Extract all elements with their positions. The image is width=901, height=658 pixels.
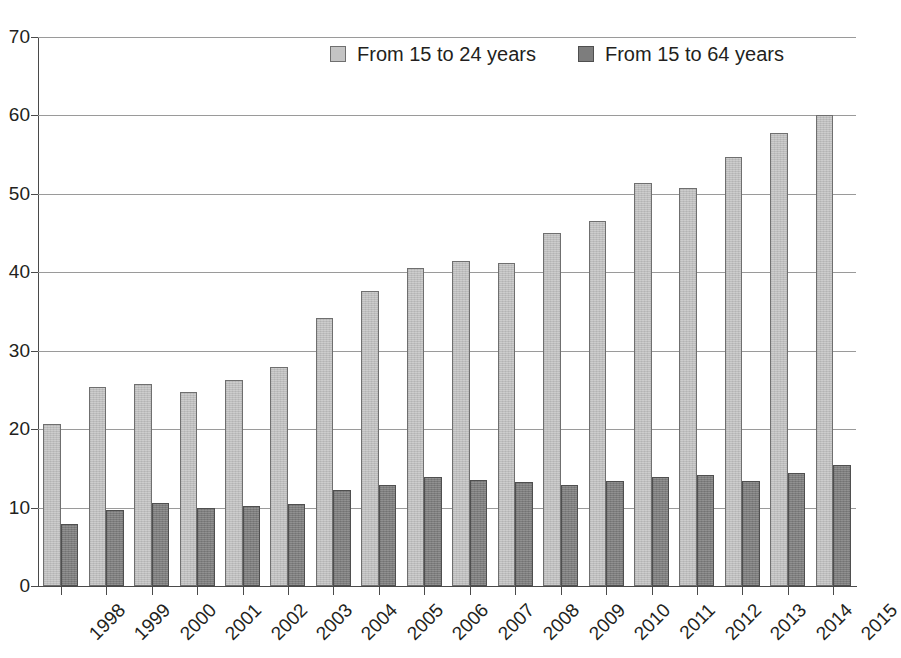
bar-1998-series-1[interactable] — [61, 524, 79, 586]
x-tick-mark-2002 — [243, 587, 244, 595]
x-tick-label-2001: 2001 — [221, 600, 264, 643]
bar-2005-series-0[interactable] — [361, 291, 379, 586]
x-tick-label-2015: 2015 — [858, 600, 901, 643]
x-tick-mark-2011 — [652, 587, 653, 595]
y-tick-mark-30 — [31, 351, 38, 352]
y-tick-mark-70 — [31, 37, 38, 38]
x-tick-mark-1998 — [61, 587, 62, 595]
bar-2000-series-0[interactable] — [134, 384, 152, 586]
bar-2010-series-1[interactable] — [606, 481, 624, 586]
x-tick-mark-2015 — [833, 587, 834, 595]
bar-2003-series-0[interactable] — [270, 367, 288, 586]
gridline-70 — [38, 37, 856, 38]
chart-legend: From 15 to 24 yearsFrom 15 to 64 years — [330, 44, 784, 64]
x-tick-label-2013: 2013 — [767, 600, 810, 643]
x-tick-label-2007: 2007 — [494, 600, 537, 643]
x-tick-mark-2008 — [515, 587, 516, 595]
bar-2001-series-1[interactable] — [197, 508, 215, 586]
x-tick-label-2003: 2003 — [312, 600, 355, 643]
x-tick-label-2012: 2012 — [721, 600, 764, 643]
y-tick-label-10: 10 — [0, 498, 30, 517]
legend-item-0[interactable]: From 15 to 24 years — [330, 44, 536, 64]
y-tick-mark-60 — [31, 115, 38, 116]
bar-2015-series-1[interactable] — [833, 465, 851, 586]
x-tick-label-2004: 2004 — [358, 600, 401, 643]
y-tick-mark-20 — [31, 429, 38, 430]
bar-2009-series-1[interactable] — [561, 485, 579, 586]
bar-2004-series-1[interactable] — [333, 490, 351, 586]
x-tick-mark-2010 — [606, 587, 607, 595]
bar-2001-series-0[interactable] — [180, 392, 198, 587]
bar-2008-series-1[interactable] — [515, 482, 533, 586]
x-tick-label-2009: 2009 — [585, 600, 628, 643]
gridline-0 — [38, 586, 856, 587]
x-tick-mark-2006 — [424, 587, 425, 595]
y-tick-label-30: 30 — [0, 341, 30, 360]
bar-2012-series-1[interactable] — [697, 475, 715, 586]
y-tick-label-0: 0 — [0, 576, 30, 595]
bar-2013-series-0[interactable] — [725, 157, 743, 586]
y-tick-label-70: 70 — [0, 27, 30, 46]
x-tick-mark-2013 — [742, 587, 743, 595]
bar-1999-series-1[interactable] — [106, 510, 124, 586]
x-tick-mark-2000 — [152, 587, 153, 595]
scan-artifact-strip — [0, 0, 870, 8]
bar-1998-series-0[interactable] — [43, 424, 61, 586]
x-tick-mark-2007 — [470, 587, 471, 595]
x-tick-label-2002: 2002 — [267, 600, 310, 643]
bar-1999-series-0[interactable] — [89, 387, 107, 586]
y-tick-mark-0 — [31, 586, 38, 587]
y-tick-mark-10 — [31, 508, 38, 509]
bar-2013-series-1[interactable] — [742, 481, 760, 586]
x-tick-mark-2014 — [788, 587, 789, 595]
y-tick-label-40: 40 — [0, 262, 30, 281]
light-gray-swatch — [330, 46, 346, 62]
bar-2008-series-0[interactable] — [498, 263, 516, 586]
bar-2006-series-1[interactable] — [424, 477, 442, 586]
bar-2007-series-1[interactable] — [470, 480, 488, 586]
bar-2014-series-1[interactable] — [788, 473, 806, 586]
bar-2010-series-0[interactable] — [589, 221, 607, 586]
bar-2012-series-0[interactable] — [679, 188, 697, 586]
y-tick-mark-40 — [31, 272, 38, 273]
dark-gray-swatch — [578, 46, 594, 62]
x-tick-mark-2004 — [333, 587, 334, 595]
bar-2007-series-0[interactable] — [452, 261, 470, 586]
x-tick-mark-2012 — [697, 587, 698, 595]
x-tick-label-2006: 2006 — [449, 600, 492, 643]
y-tick-mark-50 — [31, 194, 38, 195]
bar-2014-series-0[interactable] — [770, 133, 788, 586]
x-tick-mark-1999 — [106, 587, 107, 595]
x-tick-label-1998: 1998 — [85, 600, 128, 643]
bar-2015-series-0[interactable] — [816, 115, 834, 586]
x-tick-label-1999: 1999 — [131, 600, 174, 643]
bar-2011-series-0[interactable] — [634, 183, 652, 586]
y-tick-label-50: 50 — [0, 184, 30, 203]
bar-2005-series-1[interactable] — [379, 485, 397, 586]
plot-area — [38, 37, 856, 586]
bar-2011-series-1[interactable] — [652, 477, 670, 586]
bar-2004-series-0[interactable] — [316, 318, 334, 586]
x-tick-label-2011: 2011 — [675, 600, 717, 642]
x-tick-label-2014: 2014 — [812, 600, 855, 643]
bar-2003-series-1[interactable] — [288, 504, 306, 586]
bar-2009-series-0[interactable] — [543, 233, 561, 586]
legend-label-0: From 15 to 24 years — [357, 44, 536, 64]
bar-2006-series-0[interactable] — [407, 268, 425, 586]
x-tick-mark-2001 — [197, 587, 198, 595]
x-tick-label-2000: 2000 — [176, 600, 219, 643]
x-tick-mark-2005 — [379, 587, 380, 595]
gridline-60 — [38, 115, 856, 116]
legend-item-1[interactable]: From 15 to 64 years — [578, 44, 784, 64]
y-tick-label-20: 20 — [0, 419, 30, 438]
x-tick-label-2010: 2010 — [630, 600, 673, 643]
bar-2000-series-1[interactable] — [152, 503, 170, 586]
x-tick-label-2008: 2008 — [540, 600, 583, 643]
x-tick-mark-2003 — [288, 587, 289, 595]
x-tick-mark-2009 — [561, 587, 562, 595]
x-tick-label-2005: 2005 — [403, 600, 446, 643]
bar-2002-series-1[interactable] — [243, 506, 261, 586]
y-tick-label-60: 60 — [0, 105, 30, 124]
bar-2002-series-0[interactable] — [225, 380, 243, 586]
